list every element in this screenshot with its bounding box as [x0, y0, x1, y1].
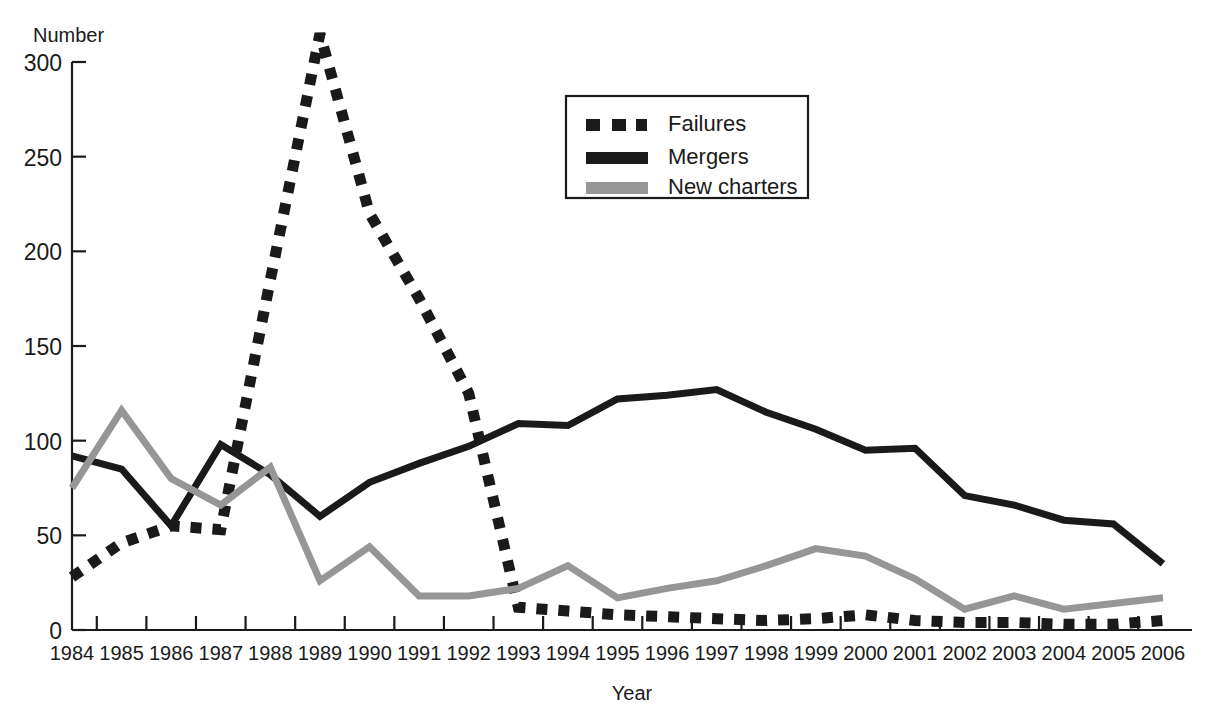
- legend-dash: [586, 119, 600, 131]
- x-tick-label: 1997: [694, 642, 739, 664]
- y-tick-label: 150: [24, 334, 62, 360]
- y-tick-label: 50: [36, 523, 62, 549]
- y-tick-label: 100: [24, 429, 62, 455]
- series-line-mergers: [72, 390, 1163, 564]
- x-tick-label: 2004: [1042, 642, 1087, 664]
- y-tick-label: 200: [24, 239, 62, 265]
- x-tick-label: 1998: [744, 642, 789, 664]
- x-axis-group: 1984198519861987198819891990199119921993…: [50, 616, 1192, 704]
- legend-label-mergers: Mergers: [668, 144, 749, 169]
- x-tick-label: 1994: [546, 642, 591, 664]
- x-tick-label: 1987: [199, 642, 244, 664]
- x-tick-label: 1984: [50, 642, 95, 664]
- chart-svg: 050100150200250300 Number 19841985198619…: [0, 0, 1216, 721]
- legend-label-failures: Failures: [668, 111, 746, 136]
- legend-dash: [636, 119, 647, 131]
- x-tick-label: 2006: [1141, 642, 1186, 664]
- bank-activity-line-chart: 050100150200250300 Number 19841985198619…: [0, 0, 1216, 721]
- x-tick-label: 1992: [446, 642, 491, 664]
- legend-label-new-charters: New charters: [668, 174, 798, 199]
- x-tick-label: 1988: [248, 642, 293, 664]
- x-tick-label: 2002: [942, 642, 987, 664]
- legend-swatch-failures: [586, 119, 647, 131]
- y-tick-label: 250: [24, 145, 62, 171]
- x-tick-label: 1986: [149, 642, 194, 664]
- x-tick-label: 2003: [992, 642, 1037, 664]
- x-tick-label: 1985: [99, 642, 144, 664]
- legend: FailuresMergersNew charters: [566, 96, 808, 199]
- x-tick-label: 2001: [893, 642, 938, 664]
- x-tick-label: 1993: [496, 642, 541, 664]
- x-tick-label: 1996: [645, 642, 690, 664]
- y-tick-label: 300: [24, 50, 62, 76]
- x-axis-title: Year: [612, 682, 653, 704]
- x-tick-label: 1989: [298, 642, 343, 664]
- x-tick-label: 1990: [347, 642, 392, 664]
- legend-swatch-mergers: [586, 152, 648, 164]
- x-tick-label: 1991: [397, 642, 442, 664]
- x-tick-label: 1995: [595, 642, 640, 664]
- y-axis-ticks: [72, 62, 86, 630]
- legend-swatch-new-charters: [586, 182, 648, 194]
- y-axis-title: Number: [33, 24, 104, 46]
- x-axis-tick-labels: 1984198519861987198819891990199119921993…: [50, 642, 1186, 664]
- y-axis-group: 050100150200250300 Number: [24, 24, 105, 644]
- x-tick-label: 1999: [794, 642, 839, 664]
- x-tick-label: 2000: [843, 642, 888, 664]
- legend-dash: [612, 119, 626, 131]
- y-axis-tick-labels: 050100150200250300: [24, 50, 62, 644]
- y-tick-label: 0: [49, 618, 62, 644]
- x-tick-label: 2005: [1091, 642, 1136, 664]
